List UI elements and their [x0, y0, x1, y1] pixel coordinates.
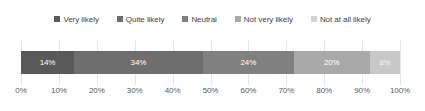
x-axis-tick-label: 40% [165, 86, 181, 96]
bar-segment-value-label: 14% [40, 58, 56, 67]
legend-swatch-icon [235, 16, 241, 22]
legend-item[interactable]: Not at all likely [311, 15, 371, 24]
bar-segment[interactable]: 14% [21, 51, 74, 74]
x-axis-tick-label: 60% [241, 86, 257, 96]
legend-swatch-icon [54, 16, 60, 22]
x-axis-tick-label: 80% [316, 86, 332, 96]
bar-segment-value-label: 34% [131, 58, 147, 67]
chart-legend: Very likelyQuite likelyNeutralNot very l… [0, 11, 425, 27]
x-axis-tick-label: 0% [15, 86, 26, 96]
x-axis: 0%10%20%30%40%50%60%70%80%90%100% [0, 86, 425, 100]
bar-segment[interactable]: 8% [370, 51, 400, 74]
stacked-bar-chart: Very likelyQuite likelyNeutralNot very l… [0, 0, 425, 111]
legend-item-label: Not very likely [244, 15, 293, 24]
bar-segment-value-label: 20% [324, 58, 340, 67]
x-axis-tick-label: 90% [354, 86, 370, 96]
legend-item-label: Neutral [191, 15, 216, 24]
legend-item[interactable]: Very likely [54, 15, 98, 24]
bar-segment[interactable]: 24% [203, 51, 294, 74]
x-axis-tick-label: 10% [51, 86, 67, 96]
x-axis-tick-label: 100% [390, 86, 410, 96]
bar-segment[interactable]: 34% [74, 51, 203, 74]
x-axis-tick-label: 20% [89, 86, 105, 96]
legend-item-label: Very likely [63, 15, 98, 24]
gridline [400, 40, 401, 85]
bar-segment-value-label: 24% [241, 58, 257, 67]
legend-item[interactable]: Quite likely [117, 15, 165, 24]
legend-swatch-icon [117, 16, 123, 22]
legend-swatch-icon [182, 16, 188, 22]
stacked-bar-series: 14%34%24%20%8% [21, 51, 400, 74]
bar-segment-value-label: 8% [379, 58, 390, 67]
x-axis-tick-label: 30% [127, 86, 143, 96]
legend-item[interactable]: Neutral [182, 15, 216, 24]
bar-segment[interactable]: 20% [294, 51, 370, 74]
legend-item[interactable]: Not very likely [235, 15, 293, 24]
legend-item-label: Not at all likely [320, 15, 371, 24]
x-axis-tick-label: 50% [203, 86, 219, 96]
legend-swatch-icon [311, 16, 317, 22]
x-axis-tick-label: 70% [278, 86, 294, 96]
legend-item-label: Quite likely [126, 15, 165, 24]
